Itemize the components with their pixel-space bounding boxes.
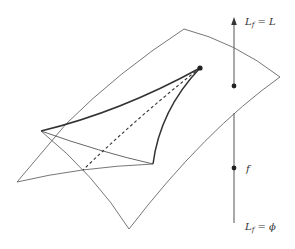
- label-bottom-relation: =: [254, 221, 269, 232]
- label-bottom-rhs: ϕ: [269, 221, 276, 232]
- curved-triangle: [41, 68, 200, 164]
- label-f: f: [246, 163, 250, 174]
- arrow-head-icon: [231, 17, 237, 25]
- lower-surface: [17, 124, 153, 182]
- dashed-diagonal: [83, 68, 200, 170]
- label-bottom: Lf = ϕ: [245, 222, 276, 234]
- label-top-relation: =: [254, 16, 269, 27]
- label-bottom-base: L: [245, 221, 252, 232]
- label-middle: f: [246, 164, 250, 174]
- label-top-rhs: L: [269, 16, 276, 27]
- curved-triangle-base: [41, 131, 153, 164]
- point-f: [232, 166, 237, 171]
- apex-point: [197, 65, 202, 70]
- diagram-canvas: [0, 0, 295, 249]
- upper-surface: [41, 29, 280, 229]
- label-top-base: L: [245, 16, 252, 27]
- point-L: [232, 84, 237, 89]
- label-top: Lf = L: [245, 17, 276, 29]
